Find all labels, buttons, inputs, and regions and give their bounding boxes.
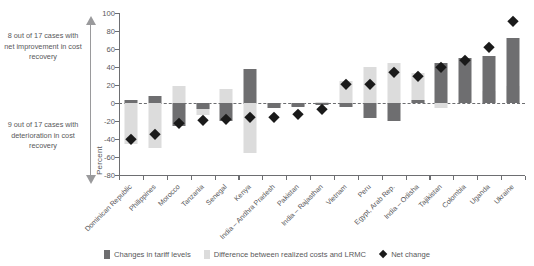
legend-swatch-light — [204, 250, 210, 259]
x-tick-mark — [167, 176, 168, 181]
x-tick-mark — [453, 176, 454, 181]
y-tick-label: 80 — [95, 27, 115, 36]
y-tick-label: 40 — [95, 63, 115, 72]
bar-segment-tariff — [244, 69, 257, 103]
bar-segment-tariff — [507, 38, 520, 103]
bar-group[interactable] — [215, 13, 239, 175]
x-tick-label: Uganda — [469, 183, 492, 206]
chart-figure: 8 out of 17 cases with net improvement i… — [0, 0, 534, 266]
bar-segment-lrmc — [148, 103, 161, 148]
y-tick-label: -80 — [95, 171, 115, 180]
y-tick-label: 0 — [95, 99, 115, 108]
x-tick-mark — [477, 176, 478, 181]
x-tick-mark — [262, 176, 263, 181]
x-tick-mark — [334, 176, 335, 181]
net-change-marker — [269, 112, 280, 123]
legend-diamond-icon — [379, 250, 388, 259]
legend-label: Net change — [391, 250, 430, 259]
x-tick-label: Morocco — [156, 183, 181, 208]
x-tick-label: Kenya — [233, 183, 253, 203]
y-tick-label: 100 — [95, 9, 115, 18]
bar-group[interactable] — [143, 13, 167, 175]
bar-group[interactable] — [286, 13, 310, 175]
bar-segment-tariff — [411, 100, 424, 103]
annotation-improvement: 8 out of 17 cases with net improvement i… — [2, 31, 84, 63]
legend-item: Difference between realized costs and LR… — [204, 250, 366, 259]
legend-swatch-dark — [104, 250, 110, 259]
clipped-title — [0, 0, 534, 1]
legend-item: Changes in tariff levels — [104, 250, 191, 259]
bar-group[interactable] — [262, 13, 286, 175]
bar-group[interactable] — [191, 13, 215, 175]
net-change-marker — [197, 115, 208, 126]
bar-segment-lrmc — [172, 86, 185, 103]
x-tick-mark — [358, 176, 359, 181]
x-tick-mark — [429, 176, 430, 181]
bar-segment-tariff — [363, 103, 376, 118]
net-change-marker — [293, 108, 304, 119]
x-tick-label: Tanzania — [179, 183, 205, 209]
bar-group[interactable] — [238, 13, 262, 175]
bar-group[interactable] — [119, 13, 143, 175]
bar-segment-tariff — [148, 96, 161, 103]
x-tick-mark — [191, 176, 192, 181]
legend-item: Net change — [379, 250, 430, 259]
bar-segment-tariff — [196, 103, 209, 109]
x-tick-mark — [215, 176, 216, 181]
bar-group[interactable] — [310, 13, 334, 175]
x-tick-mark — [143, 176, 144, 181]
bar-group[interactable] — [334, 13, 358, 175]
plot-area — [119, 13, 525, 175]
x-tick-mark — [525, 176, 526, 181]
y-tick-label: 60 — [95, 45, 115, 54]
x-tick-mark — [501, 176, 502, 181]
bar-segment-tariff — [339, 103, 352, 107]
bar-segment-lrmc — [435, 103, 448, 108]
bar-segment-tariff — [124, 100, 137, 103]
x-tick-label: Colombia — [441, 183, 468, 210]
x-tick-label: Peru — [356, 183, 372, 199]
net-change-marker — [508, 16, 519, 27]
x-tick-label: Tajikistan — [418, 183, 444, 209]
bar-group[interactable] — [167, 13, 191, 175]
legend-label: Changes in tariff levels — [114, 250, 191, 259]
y-tick-label: -20 — [95, 117, 115, 126]
bar-segment-lrmc — [244, 103, 257, 153]
bar-group[interactable] — [429, 13, 453, 175]
bar-group[interactable] — [406, 13, 430, 175]
bar-group[interactable] — [453, 13, 477, 175]
bar-segment-tariff — [483, 56, 496, 103]
x-tick-label: Senegal — [205, 183, 229, 207]
y-tick-label: 20 — [95, 81, 115, 90]
y-tick-label: -60 — [95, 153, 115, 162]
bar-group[interactable] — [501, 13, 525, 175]
bar-segment-tariff — [292, 103, 305, 107]
bar-group[interactable] — [358, 13, 382, 175]
x-tick-mark — [406, 176, 407, 181]
annotation-deterioration: 9 out of 17 cases with deterioration in … — [2, 120, 84, 152]
x-tick-label: Dominican Republic — [83, 183, 133, 233]
x-tick-mark — [310, 176, 311, 181]
x-tick-mark — [286, 176, 287, 181]
x-tick-mark — [382, 176, 383, 181]
y-tick-label: -40 — [95, 135, 115, 144]
x-tick-mark — [119, 176, 120, 181]
bar-segment-tariff — [387, 103, 400, 121]
bar-group[interactable] — [382, 13, 406, 175]
bar-segment-tariff — [268, 103, 281, 108]
chart-legend: Changes in tariff levelsDifference betwe… — [0, 250, 534, 259]
x-tick-mark — [238, 176, 239, 181]
bar-segment-lrmc — [220, 89, 233, 103]
x-tick-label: Vietnam — [325, 183, 349, 207]
net-change-marker — [484, 42, 495, 53]
x-tick-label: Ukraine — [493, 183, 516, 206]
net-change-marker — [317, 104, 328, 115]
legend-label: Difference between realized costs and LR… — [214, 250, 366, 259]
bar-group[interactable] — [477, 13, 501, 175]
